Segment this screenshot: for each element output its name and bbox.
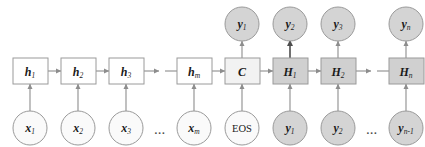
encoder-input-arrows — [30, 84, 194, 114]
node-eos-label: EOS — [232, 123, 252, 134]
decoder-hidden-boxes: H1 H2 Hn — [273, 58, 424, 84]
decoder-output-arrows — [242, 40, 406, 58]
diagram-canvas: h1 h2 h3 hm C H1 H2 Hn x1 x2 — [0, 0, 425, 147]
encoder-hidden-boxes: h1 h2 h3 hm — [13, 58, 212, 84]
decoder-input-circles: EOS y1 y2 ... yn-1 — [225, 111, 423, 145]
encoder-input-circles: x1 x2 x3 ... xm — [13, 111, 211, 145]
decoder-input-arrows — [242, 84, 406, 114]
decoder-output-circles: y1 y2 y3 yn — [225, 7, 423, 41]
decoder-input-ellipsis: ... — [366, 124, 377, 136]
seq2seq-diagram: h1 h2 h3 hm C H1 H2 Hn x1 x2 — [0, 0, 425, 147]
context-box-group: C — [225, 58, 260, 84]
node-context-c-label: C — [238, 65, 247, 79]
encoder-input-ellipsis: ... — [154, 124, 165, 136]
